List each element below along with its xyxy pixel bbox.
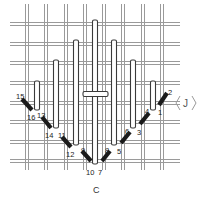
horizontal-bar-stitch <box>83 92 108 97</box>
stitch-number-15: 15 <box>16 92 24 101</box>
stitch-number-9: 9 <box>81 146 85 155</box>
stitch-number-3: 3 <box>137 128 141 137</box>
left-angle-bracket-icon <box>176 96 180 110</box>
stitch-number-6: 6 <box>125 127 129 136</box>
figure-caption: C <box>93 185 100 195</box>
stitch-number-16: 16 <box>27 113 35 122</box>
stitch-number-14: 14 <box>45 131 53 140</box>
vertical-bar-stitch <box>54 60 59 128</box>
pointer-label-text: J <box>183 98 188 109</box>
stitch-number-4: 4 <box>145 107 149 116</box>
stitch-number-1: 1 <box>158 108 162 117</box>
right-angle-bracket-icon <box>192 96 196 110</box>
stitch-number-10: 10 <box>86 168 94 177</box>
stitch-number-2: 2 <box>168 88 172 97</box>
horizontal-bar-stitch <box>83 92 108 97</box>
stitch-diagram: 12345678910111213141516 J C <box>0 0 199 200</box>
stitch-number-5: 5 <box>117 147 121 156</box>
vertical-bar-stitch <box>35 81 40 110</box>
stitch-number-11: 11 <box>58 131 66 140</box>
vertical-bar-stitch <box>112 40 117 145</box>
stitch-number-13: 13 <box>37 111 45 120</box>
vertical-bar-stitch <box>151 81 156 110</box>
stitch-number-12: 12 <box>66 150 74 159</box>
stitch-number-8: 8 <box>105 146 109 155</box>
vertical-bar-stitch <box>131 60 136 128</box>
stitch-number-7: 7 <box>98 168 102 177</box>
vertical-bar-stitch <box>74 40 79 145</box>
pointer-label-j: J <box>176 96 196 110</box>
